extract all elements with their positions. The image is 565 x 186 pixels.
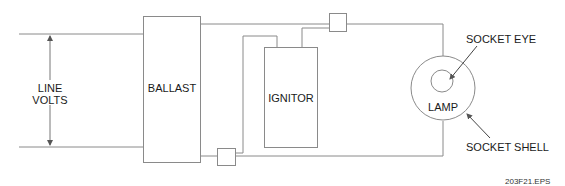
line-volts-label-line1: LINE [30,82,70,94]
socket-eye-pointer [450,46,477,79]
lamp-label: LAMP [423,101,463,113]
wire-top-to-lamp [346,24,443,56]
wire-ignitor-to-top-box [302,28,329,47]
ballast-label: BALLAST [143,82,201,94]
figure-id: 203F21.EPS [505,176,550,186]
line-volts-label-line2: VOLTS [30,94,70,106]
ignitor-label: IGNITOR [264,92,318,104]
wire-bottom-to-lamp [235,121,443,156]
socket-shell-pointer [467,114,490,138]
socket-eye-circle [431,70,453,92]
terminal-box-top [330,14,347,32]
line-volts-label: LINE VOLTS [30,82,70,106]
terminal-box-bottom [218,149,236,166]
socket-eye-label: SOCKET EYE [466,33,536,45]
socket-shell-label: SOCKET SHELL [466,141,549,153]
